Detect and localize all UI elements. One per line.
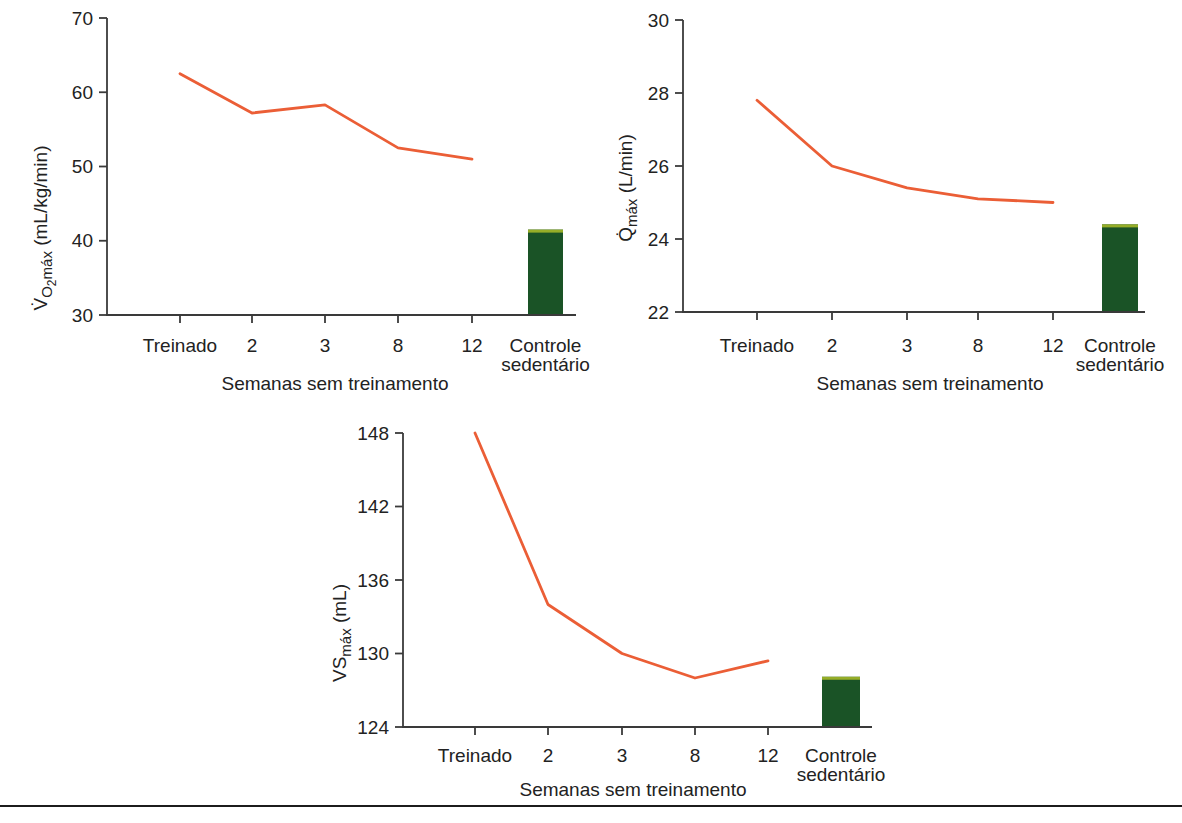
x-tick-label: 2: [827, 335, 838, 356]
control-bar: [822, 677, 860, 727]
chart-vsmax: 124130136142148Treinado23812Controlesede…: [320, 400, 910, 800]
y-tick-label: 130: [357, 643, 389, 664]
x-tick-label: 12: [1042, 335, 1063, 356]
x-tick-label: Treinado: [720, 335, 794, 356]
y-tick-label: 60: [72, 82, 93, 103]
control-label-line1: Controle: [1084, 335, 1156, 356]
control-label-line2: sedentário: [501, 354, 590, 375]
control-bar: [528, 230, 563, 315]
x-tick-label: Treinado: [143, 335, 217, 356]
x-axis-title: Semanas sem treinamento: [816, 373, 1043, 394]
x-tick-label: 12: [757, 745, 778, 766]
y-tick-label: 124: [357, 717, 389, 738]
y-tick-label: 30: [72, 305, 93, 326]
chart-vsmax-svg: 124130136142148Treinado23812Controlesede…: [320, 400, 910, 800]
page-divider-rule: [0, 805, 1182, 807]
x-tick-label: 8: [393, 335, 404, 356]
y-tick-label: 30: [648, 10, 669, 31]
x-tick-label: 2: [543, 745, 554, 766]
y-tick-label: 136: [357, 570, 389, 591]
control-label-line1: Controle: [510, 335, 582, 356]
x-tick-label: 3: [320, 335, 331, 356]
chart-qmax: 2224262830Treinado23812Controlesedentári…: [600, 0, 1182, 400]
chart-vo2max: 3040506070Treinado23812Controlesedentári…: [20, 0, 600, 400]
x-tick-label: 8: [690, 745, 701, 766]
control-label-line2: sedentário: [1076, 354, 1165, 375]
x-tick-label: 3: [617, 745, 628, 766]
control-label-line1: Controle: [805, 745, 877, 766]
y-tick-label: 40: [72, 230, 93, 251]
x-tick-label: 3: [902, 335, 913, 356]
x-axis-title: Semanas sem treinamento: [519, 779, 746, 800]
y-tick-label: 50: [72, 156, 93, 177]
y-tick-label: 148: [357, 423, 389, 444]
x-tick-label: Treinado: [438, 745, 512, 766]
chart-vo2max-svg: 3040506070Treinado23812Controlesedentári…: [20, 0, 600, 400]
y-tick-label: 24: [648, 229, 670, 250]
line-series: [475, 433, 768, 678]
line-series: [757, 100, 1053, 202]
line-series: [180, 74, 472, 159]
y-axis-label: VSmáx (mL): [329, 584, 354, 682]
x-tick-label: 12: [461, 335, 482, 356]
y-tick-label: 26: [648, 156, 669, 177]
x-axis-title: Semanas sem treinamento: [221, 373, 448, 394]
x-tick-label: 8: [973, 335, 984, 356]
control-label-line2: sedentário: [797, 764, 886, 785]
x-tick-label: 2: [247, 335, 258, 356]
control-bar-cap: [822, 677, 860, 680]
figure-page: 3040506070Treinado23812Controlesedentári…: [0, 0, 1182, 823]
y-axis-label: Q̇máx (L/min): [615, 134, 640, 242]
y-axis-label: V̇O2máx (mL/kg/min): [30, 146, 59, 311]
y-tick-label: 22: [648, 302, 669, 323]
control-bar: [1102, 224, 1138, 312]
chart-qmax-svg: 2224262830Treinado23812Controlesedentári…: [600, 0, 1182, 400]
control-bar-cap: [528, 230, 563, 233]
y-tick-label: 70: [72, 8, 93, 29]
control-bar-cap: [1102, 224, 1138, 227]
y-tick-label: 28: [648, 83, 669, 104]
y-tick-label: 142: [357, 496, 389, 517]
